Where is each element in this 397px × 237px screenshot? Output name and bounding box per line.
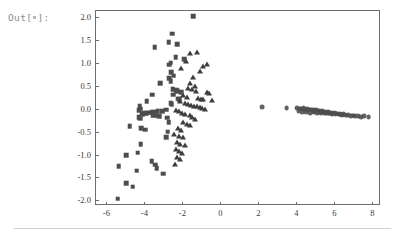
data-point-square (167, 62, 172, 67)
y-tick-label: -1.5 (78, 172, 91, 182)
data-point-triangle (209, 98, 215, 103)
cell-separator (14, 228, 391, 229)
data-point-triangle (192, 116, 198, 121)
y-tick (95, 177, 99, 178)
data-point-triangle (178, 66, 184, 71)
data-point-triangle (194, 49, 200, 54)
data-point-triangle (200, 97, 206, 102)
y-tick (95, 63, 99, 64)
data-point-square (168, 79, 173, 84)
data-point-square (130, 184, 135, 189)
data-point-square (171, 93, 176, 98)
data-point-square (124, 181, 129, 186)
y-tick (95, 17, 99, 18)
y-tick (95, 200, 99, 201)
data-point-square (172, 73, 177, 78)
x-tick (258, 202, 259, 206)
y-tick (95, 155, 99, 156)
data-point-square (150, 93, 155, 98)
data-point-square (135, 150, 140, 155)
out-label-suffix: ]: (37, 12, 49, 23)
data-point-square (169, 102, 174, 107)
y-tick-label: -2.0 (78, 195, 91, 205)
data-point-square (144, 99, 149, 104)
collapsed-cell-dot-icon[interactable] (32, 15, 37, 20)
data-point-triangle (193, 89, 199, 94)
x-tick (106, 202, 107, 206)
data-point-triangle (187, 50, 193, 55)
data-point-circle (284, 105, 289, 110)
data-point-triangle (202, 106, 208, 111)
x-tick (182, 202, 183, 206)
data-point-triangle (187, 123, 193, 128)
x-tick-label: -6 (103, 208, 110, 218)
data-point-square (154, 166, 159, 171)
data-point-square (135, 168, 140, 173)
x-tick (372, 202, 373, 206)
out-label[interactable]: Out[]: (8, 12, 50, 23)
data-point-square (175, 42, 180, 47)
data-point-square (138, 142, 143, 147)
data-point-square (124, 153, 129, 158)
y-tick-label: 1.5 (80, 35, 91, 45)
y-tick (95, 40, 99, 41)
notebook-output-cell: Out[]: 2.01.51.00.50.0-0.5-1.0-1.5-2.0-6… (0, 0, 397, 237)
data-point-triangle (190, 74, 196, 79)
data-point-circle (259, 104, 264, 109)
data-point-square (138, 116, 143, 121)
data-point-triangle (178, 127, 184, 132)
data-point-square (173, 55, 178, 60)
data-point-square (170, 32, 175, 37)
plot-canvas (95, 10, 380, 205)
x-tick-label: -4 (141, 208, 148, 218)
y-tick (95, 109, 99, 110)
x-tick-label: 2 (256, 208, 260, 218)
y-tick-label: 0.5 (80, 81, 91, 91)
x-tick-label: 4 (294, 208, 298, 218)
x-tick-label: 8 (370, 208, 374, 218)
data-point-triangle (197, 69, 203, 74)
x-tick (334, 202, 335, 206)
data-point-square (161, 172, 166, 177)
data-point-square (153, 45, 158, 50)
scatter-plot[interactable]: 2.01.51.00.50.0-0.5-1.0-1.5-2.0-6-4-2024… (95, 10, 380, 205)
data-point-triangle (184, 94, 190, 99)
data-point-square (143, 127, 148, 132)
x-tick (296, 202, 297, 206)
data-point-square (127, 124, 132, 129)
data-point-square (166, 40, 171, 45)
data-point-triangle (206, 91, 212, 96)
data-point-circle (366, 115, 371, 120)
y-tick-label: 2.0 (80, 12, 91, 22)
data-point-triangle (180, 135, 186, 140)
x-tick (220, 202, 221, 206)
y-tick-label: 1.0 (80, 58, 91, 68)
data-point-square (116, 164, 121, 169)
data-point-square (165, 129, 170, 134)
data-point-triangle (183, 58, 189, 63)
data-point-square (166, 120, 171, 125)
data-point-triangle (172, 161, 178, 166)
y-tick-label: -0.5 (78, 127, 91, 137)
out-label-prefix: Out[ (8, 12, 32, 23)
data-point-circle (341, 112, 346, 117)
data-point-square (157, 114, 162, 119)
y-tick-label: 0.0 (80, 104, 91, 114)
x-tick-label: -2 (179, 208, 186, 218)
data-point-square (116, 196, 121, 201)
y-tick (95, 132, 99, 133)
y-tick (95, 86, 99, 87)
x-tick-label: 0 (218, 208, 222, 218)
data-point-square (160, 109, 165, 114)
data-point-square (158, 81, 163, 86)
data-point-triangle (200, 63, 206, 68)
data-point-square (191, 14, 196, 19)
y-tick-label: -1.0 (78, 150, 91, 160)
data-point-triangle (182, 143, 188, 148)
x-tick-label: 6 (332, 208, 336, 218)
x-tick (144, 202, 145, 206)
data-point-square (164, 135, 169, 140)
